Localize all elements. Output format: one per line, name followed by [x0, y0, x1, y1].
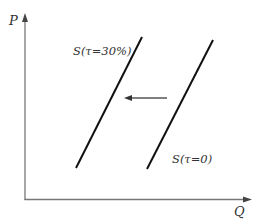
x-axis-arrowhead-icon	[243, 197, 252, 203]
x-axis-label: Q	[234, 204, 245, 219]
y-axis-arrowhead-icon	[22, 13, 28, 22]
supply-with-tax-label: S(τ=30%)	[73, 44, 131, 58]
supply-shift-diagram: P Q S(τ=30%) S(τ=0)	[0, 0, 259, 224]
supply-curve-no-tax	[147, 40, 213, 169]
y-axis-label: P	[8, 13, 18, 28]
diagram-canvas: P Q S(τ=30%) S(τ=0)	[0, 0, 259, 224]
supply-no-tax-label: S(τ=0)	[172, 152, 212, 166]
arrow-left-icon	[124, 95, 132, 101]
